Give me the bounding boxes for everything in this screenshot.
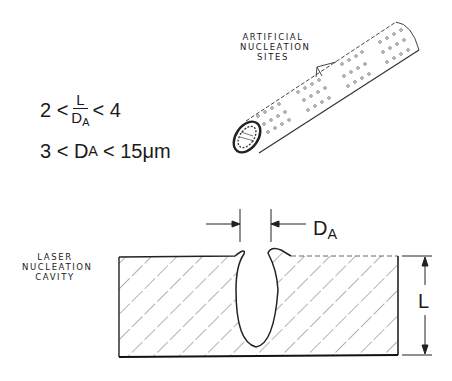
diameter-lower-bound: 3 < D	[40, 141, 88, 161]
cavity-cross-section	[119, 249, 398, 357]
ratio-equation: 2 < L DA < 4	[40, 92, 121, 127]
diagram-canvas	[0, 0, 452, 381]
diameter-upper-bound: < 15μm	[103, 141, 171, 161]
ratio-lower-bound: 2 <	[40, 100, 68, 120]
diameter-subscript: A	[88, 144, 98, 158]
tube-label: ARTIFICIAL NUCLEATION SITES	[240, 32, 306, 62]
diameter-dimension	[206, 209, 306, 242]
ratio-fraction: L DA	[71, 92, 89, 127]
cavity-label-line: NUCLEATION	[22, 262, 88, 272]
cavity-label-line: LASER	[22, 252, 88, 262]
cavity-label: LASER NUCLEATION CAVITY	[22, 252, 88, 282]
fraction-numerator: L	[73, 92, 87, 109]
tube-label-line: SITES	[240, 52, 306, 62]
ratio-upper-bound: < 4	[92, 100, 120, 120]
diameter-equation: 3 < DA < 15μm	[40, 141, 171, 161]
cavity-label-line: CAVITY	[22, 272, 88, 282]
tube-label-line: ARTIFICIAL	[240, 32, 306, 42]
tube-label-line: NUCLEATION	[240, 42, 306, 52]
diameter-label: DA	[313, 217, 337, 242]
fraction-denominator: DA	[71, 109, 89, 127]
depth-label: L	[418, 290, 429, 313]
